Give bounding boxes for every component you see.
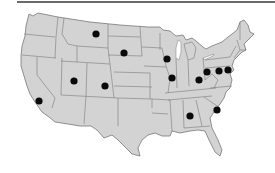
marker-south-dakota[interactable] — [120, 49, 127, 56]
us-map — [0, 0, 275, 173]
marker-illinois[interactable] — [168, 74, 175, 81]
marker-kentucky-ohio[interactable] — [195, 76, 202, 83]
marker-alabama[interactable] — [186, 112, 193, 119]
marker-colorado[interactable] — [101, 82, 108, 89]
marker-ohio-east[interactable] — [203, 68, 210, 75]
marker-california[interactable] — [35, 97, 42, 104]
marker-montana[interactable] — [92, 30, 99, 37]
us-outline — [21, 13, 254, 156]
marker-pennsylvania[interactable] — [215, 67, 222, 74]
marker-utah[interactable] — [70, 77, 77, 84]
marker-new-jersey[interactable] — [224, 66, 231, 73]
marker-south-carolina[interactable] — [213, 106, 220, 113]
marker-wisconsin[interactable] — [163, 55, 170, 62]
